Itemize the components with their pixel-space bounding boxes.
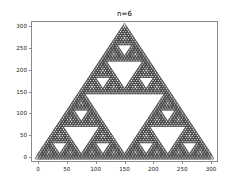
y-tick-mark xyxy=(29,70,31,71)
x-tick-label: 0 xyxy=(36,166,40,172)
x-tick-label: 100 xyxy=(90,166,101,172)
x-tick-label: 300 xyxy=(206,166,217,172)
y-tick-label: 50 xyxy=(8,132,27,138)
y-tick-mark xyxy=(29,92,31,93)
chart-title: n=6 xyxy=(31,10,218,19)
x-tick-mark xyxy=(125,162,126,164)
y-tick-mark xyxy=(29,135,31,136)
x-tick-label: 150 xyxy=(119,166,130,172)
y-tick-mark xyxy=(29,48,31,49)
y-tick-mark xyxy=(29,26,31,27)
y-tick-label: 200 xyxy=(8,67,27,73)
y-tick-mark xyxy=(29,113,31,114)
sierpinski-scatter-plot xyxy=(31,21,218,162)
x-tick-label: 250 xyxy=(177,166,188,172)
x-tick-mark xyxy=(38,162,39,164)
x-tick-mark xyxy=(211,162,212,164)
x-tick-label: 200 xyxy=(148,166,159,172)
figure-canvas: n=6 050100150200250300 05010015020025030… xyxy=(0,0,235,193)
y-tick-mark xyxy=(29,157,31,158)
x-tick-mark xyxy=(182,162,183,164)
x-tick-label: 50 xyxy=(63,166,70,172)
x-tick-mark xyxy=(67,162,68,164)
y-tick-label: 150 xyxy=(8,89,27,95)
x-tick-mark xyxy=(96,162,97,164)
y-tick-label: 100 xyxy=(8,110,27,116)
y-tick-label: 250 xyxy=(8,45,27,51)
y-tick-label: 0 xyxy=(8,154,27,160)
y-tick-label: 300 xyxy=(8,23,27,29)
x-tick-mark xyxy=(153,162,154,164)
marker-group xyxy=(35,23,214,159)
